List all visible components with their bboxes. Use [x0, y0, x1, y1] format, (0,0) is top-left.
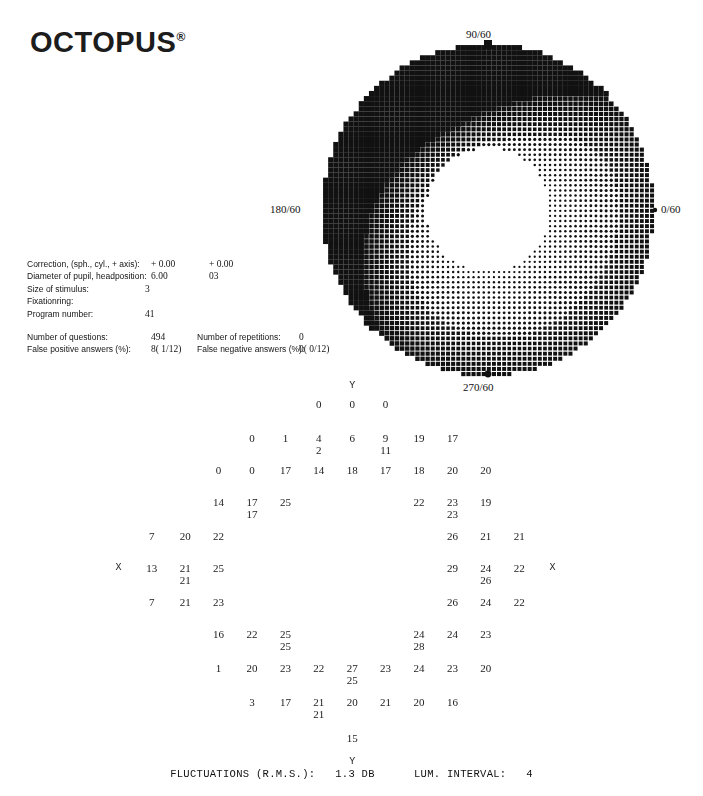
sensitivity-value-cell: 17 — [272, 464, 298, 476]
param-row-questions: Number of questions: 494 Number of repet… — [27, 331, 467, 343]
sensitivity-value-cell: 21 — [172, 596, 198, 608]
lum-interval-label: LUM. INTERVAL: — [414, 768, 506, 780]
cell-primary-value: 3 — [249, 696, 255, 708]
cell-primary-value: 17 — [447, 432, 458, 444]
cell-primary-value: X — [550, 562, 556, 573]
cell-repeat-value: 17 — [239, 508, 265, 520]
sensitivity-value-cell: 0 — [306, 398, 332, 410]
sensitivity-value-cell: 22 — [506, 562, 532, 574]
cell-primary-value: 22 — [414, 496, 425, 508]
cell-primary-value: 17 — [247, 496, 258, 508]
param-row-pupil: Diameter of pupil, headposition: 6.00 03 — [27, 270, 467, 282]
fluctuations-value: 1.3 DB — [335, 768, 375, 780]
cell-repeat-value: 26 — [473, 574, 499, 586]
cell-primary-value: 20 — [247, 662, 258, 674]
cell-primary-value: 23 — [447, 496, 458, 508]
cell-primary-value: 20 — [480, 464, 491, 476]
cell-primary-value: 20 — [347, 696, 358, 708]
sensitivity-value-cell: 20 — [406, 696, 432, 708]
param-label-stimulus: Size of stimulus: — [27, 283, 89, 295]
cell-primary-value: 13 — [146, 562, 157, 574]
cell-primary-value: 6 — [349, 432, 355, 444]
cell-primary-value: 20 — [180, 530, 191, 542]
sensitivity-value-cell: 1 — [206, 662, 232, 674]
sensitivity-value-cell: 23 — [439, 662, 465, 674]
cell-primary-value: 14 — [313, 464, 324, 476]
test-parameters-block: Correction, (sph., cyl., + axis): + 0.00… — [27, 258, 467, 356]
meridian-label-180: 180/60 — [270, 203, 301, 215]
cell-primary-value: 25 — [280, 496, 291, 508]
meridian-label-0: 0/60 — [661, 203, 681, 215]
param-label-fixationring: Fixationring: — [27, 295, 73, 307]
param-value-questions: 494 — [151, 331, 165, 343]
sensitivity-value-cell: 2121 — [306, 696, 332, 720]
sensitivity-value-cell: 21 — [473, 530, 499, 542]
sensitivity-value-cell: 16 — [439, 696, 465, 708]
cell-primary-value: 0 — [249, 464, 255, 476]
sensitivity-value-cell: 16 — [206, 628, 232, 640]
cell-primary-value: 9 — [383, 432, 389, 444]
sensitivity-value-cell: 13 — [139, 562, 165, 574]
cell-repeat-value: 28 — [406, 640, 432, 652]
cell-repeat-value: 23 — [439, 508, 465, 520]
cell-primary-value: 20 — [414, 696, 425, 708]
cell-primary-value: 26 — [447, 530, 458, 542]
sensitivity-value-cell: 7 — [139, 596, 165, 608]
cell-primary-value: 22 — [514, 596, 525, 608]
sensitivity-value-cell: 24 — [439, 628, 465, 640]
cell-primary-value: 22 — [514, 562, 525, 574]
cell-primary-value: 7 — [149, 596, 155, 608]
cell-primary-value: 24 — [447, 628, 458, 640]
sensitivity-value-cell: 0 — [206, 464, 232, 476]
sensitivity-value-cell: 2725 — [339, 662, 365, 686]
sensitivity-value-cell: 19 — [473, 496, 499, 508]
fluctuations-label: FLUCTUATIONS (R.M.S.): — [170, 768, 315, 780]
meridian-label-90: 90/60 — [466, 28, 491, 40]
sensitivity-value-cell: 3 — [239, 696, 265, 708]
sensitivity-value-cell: 7 — [139, 530, 165, 542]
sensitivity-value-cell: 22 — [406, 496, 432, 508]
cell-primary-value: 21 — [180, 596, 191, 608]
param-label-repetitions: Number of repetitions: — [197, 331, 281, 343]
cell-primary-value: 18 — [347, 464, 358, 476]
sensitivity-value-cell: 18 — [406, 464, 432, 476]
cell-primary-value: 14 — [213, 496, 224, 508]
sensitivity-value-cell: 20 — [473, 464, 499, 476]
cell-repeat-value: 11 — [373, 444, 399, 456]
cell-primary-value: X — [115, 562, 121, 573]
lum-interval-value: 4 — [526, 768, 533, 780]
sensitivity-value-cell: 22 — [239, 628, 265, 640]
cell-primary-value: 29 — [447, 562, 458, 574]
cell-primary-value: 21 — [380, 696, 391, 708]
cell-primary-value: 22 — [247, 628, 258, 640]
cell-primary-value: 22 — [213, 530, 224, 542]
sensitivity-value-cell: 22 — [206, 530, 232, 542]
param-label-correction: Correction, (sph., cyl., + axis): — [27, 258, 140, 270]
cell-primary-value: 21 — [313, 696, 324, 708]
cell-primary-value: 23 — [447, 662, 458, 674]
cell-primary-value: 17 — [280, 464, 291, 476]
cell-primary-value: 20 — [480, 662, 491, 674]
cell-primary-value: 21 — [180, 562, 191, 574]
sensitivity-value-cell: 15 — [339, 732, 365, 744]
cell-primary-value: 1 — [283, 432, 289, 444]
param-row-program: Program number: 41 — [27, 308, 467, 320]
cell-primary-value: 15 — [347, 732, 358, 744]
param-value-program: 41 — [145, 308, 155, 320]
cell-primary-value: 18 — [414, 464, 425, 476]
cell-primary-value: 24 — [480, 596, 491, 608]
cell-primary-value: Y — [349, 380, 355, 391]
cell-repeat-value: 25 — [339, 674, 365, 686]
param-value-pupil-diameter: 6.00 — [151, 270, 168, 282]
param-row-false-positive: False positive answers (%): 8( 1/12) Fal… — [27, 343, 467, 355]
sensitivity-value-cell: 21 — [506, 530, 532, 542]
octopus-logo: OCTOPUS® — [30, 26, 186, 59]
param-row-stimulus: Size of stimulus: 3 — [27, 283, 467, 295]
cell-primary-value: 25 — [280, 628, 291, 640]
sensitivity-value-cell: 18 — [339, 464, 365, 476]
sensitivity-value-cell: 6 — [339, 432, 365, 444]
param-row-fixationring: Fixationring: — [27, 295, 467, 307]
sensitivity-value-cell: 14 — [206, 496, 232, 508]
cell-primary-value: 1 — [216, 662, 222, 674]
param-value-false-negative: 0( 0/12) — [299, 343, 329, 355]
